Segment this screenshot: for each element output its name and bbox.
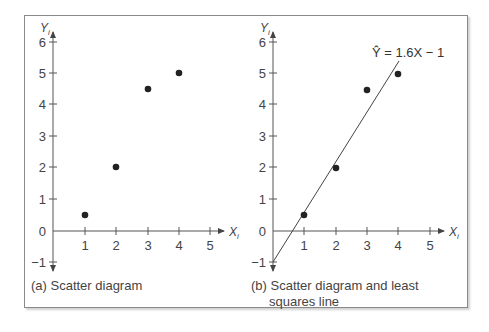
svg-text:2: 2 xyxy=(332,238,339,253)
y-axis-label: Yi xyxy=(260,21,270,37)
svg-text:1: 1 xyxy=(81,238,88,253)
y-tick-labels: 6 5 4 3 2 1 0 −1 xyxy=(31,35,46,270)
svg-text:2: 2 xyxy=(39,160,46,175)
svg-text:3: 3 xyxy=(363,238,370,253)
y-axis-label: Yi xyxy=(40,21,50,37)
svg-text:0: 0 xyxy=(39,224,46,239)
panel-a-caption: (a) Scatter diagram xyxy=(31,277,142,294)
svg-text:6: 6 xyxy=(39,35,46,50)
svg-text:3: 3 xyxy=(259,129,266,144)
x-axis-label: Xi xyxy=(228,225,239,241)
regression-equation: Ŷ = 1.6X − 1 xyxy=(372,45,444,60)
svg-text:3: 3 xyxy=(144,238,151,253)
panel-a-chart: 6 5 4 3 2 1 0 −1 1 2 3 4 5 Yi Xi xyxy=(31,21,239,271)
svg-text:2: 2 xyxy=(112,238,119,253)
x-tick-labels: 1 2 3 4 5 xyxy=(300,238,433,253)
panel-b-caption-line2: squares line xyxy=(269,293,339,310)
svg-text:5: 5 xyxy=(426,238,433,253)
svg-text:4: 4 xyxy=(39,97,46,112)
svg-text:−1: −1 xyxy=(31,255,46,270)
svg-text:6: 6 xyxy=(259,35,266,50)
svg-text:−1: −1 xyxy=(251,255,266,270)
svg-text:5: 5 xyxy=(39,66,46,81)
data-points xyxy=(82,70,183,219)
svg-text:2: 2 xyxy=(259,160,266,175)
svg-text:5: 5 xyxy=(259,66,266,81)
svg-text:1: 1 xyxy=(300,238,307,253)
svg-text:4: 4 xyxy=(394,238,401,253)
svg-text:5: 5 xyxy=(206,238,213,253)
y-tick-labels: 6 5 4 3 2 1 0 −1 xyxy=(251,35,266,270)
x-tick-labels: 1 2 3 4 5 xyxy=(81,238,213,253)
panel-b-caption-line1: (b) Scatter diagram and least xyxy=(251,277,419,294)
data-points xyxy=(301,71,402,219)
x-axis-label: Xi xyxy=(448,225,459,241)
svg-text:4: 4 xyxy=(259,97,266,112)
panel-b-chart: 6 5 4 3 2 1 0 −1 1 2 3 4 5 Yi Xi Ŷ = 1.6… xyxy=(251,21,459,271)
svg-text:4: 4 xyxy=(175,238,182,253)
svg-text:0: 0 xyxy=(259,224,266,239)
svg-text:1: 1 xyxy=(39,192,46,207)
svg-text:1: 1 xyxy=(259,192,266,207)
svg-text:3: 3 xyxy=(39,129,46,144)
